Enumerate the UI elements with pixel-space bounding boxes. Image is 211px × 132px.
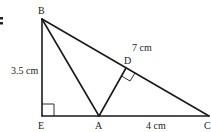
right-angle-D-icon <box>122 73 136 81</box>
label-A: A <box>95 120 103 131</box>
marker-dot-bottom <box>0 22 3 25</box>
segment-AD <box>99 68 126 116</box>
measure-BC: 7 cm <box>132 42 152 53</box>
label-C: C <box>204 120 211 131</box>
label-E: E <box>38 120 44 131</box>
label-D: D <box>124 55 131 66</box>
right-angle-E-icon <box>42 104 54 116</box>
segment-BA <box>42 19 99 116</box>
geometry-diagram: B E A C D 3.5 cm 7 cm 4 cm <box>0 0 211 132</box>
label-B: B <box>38 5 45 16</box>
measure-BE: 3.5 cm <box>11 65 38 76</box>
marker-dot-top <box>0 17 3 20</box>
measure-AC: 4 cm <box>146 120 166 131</box>
